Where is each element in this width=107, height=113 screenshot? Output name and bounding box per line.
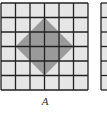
grid-b-partial — [101, 3, 107, 90]
grid-figures — [0, 0, 107, 113]
figure-label-a: A — [37, 95, 53, 107]
grid-a — [1, 3, 88, 90]
